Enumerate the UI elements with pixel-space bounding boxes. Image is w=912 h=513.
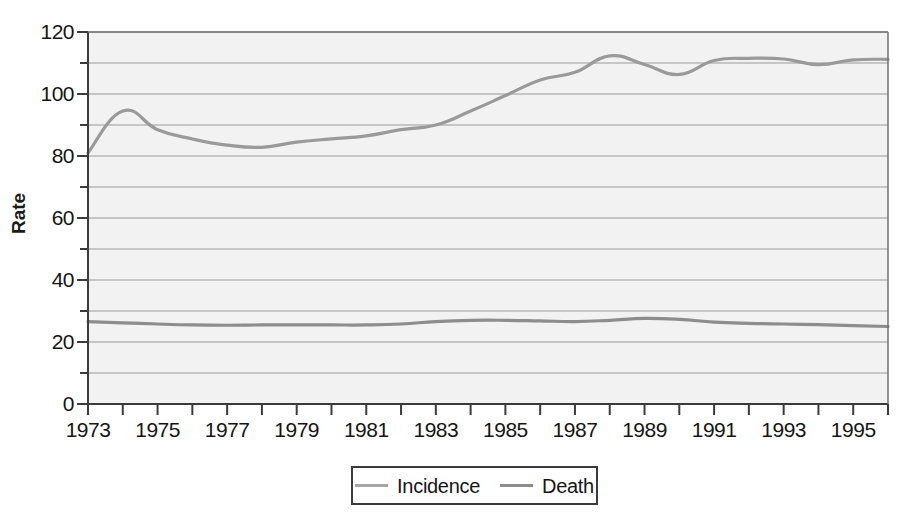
legend-swatch-incidence <box>355 484 388 487</box>
line-chart: Rate 020406080100120 Incidence Death 197… <box>0 0 912 513</box>
chart-legend: Incidence Death <box>351 466 598 505</box>
legend-entry-death: Death <box>490 476 604 496</box>
legend-label-death: Death <box>542 476 594 496</box>
legend-entry-incidence: Incidence <box>345 476 490 496</box>
legend-label-incidence: Incidence <box>397 476 480 496</box>
x-axis-tick-label: 1995 <box>808 418 898 442</box>
legend-swatch-death <box>500 484 533 487</box>
